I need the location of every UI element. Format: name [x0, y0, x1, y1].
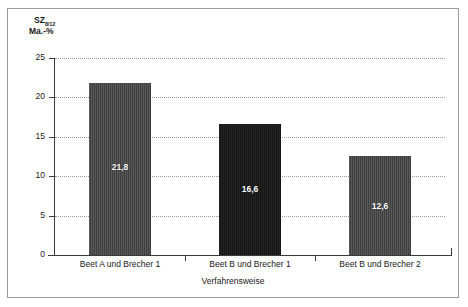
- bar: 16,6: [219, 124, 281, 255]
- bar-value-label: 12,6: [349, 201, 411, 211]
- y-axis-tick: [49, 255, 55, 256]
- bar-value-label: 16,6: [219, 184, 281, 194]
- chart-figure: SZ8/12 Ma.-% 21,816,612,6 Verfahrensweis…: [7, 8, 459, 298]
- gridline: [55, 58, 445, 59]
- x-axis-title: Verfahrensweise: [8, 276, 458, 286]
- y-axis-tick-label: 15: [18, 132, 45, 141]
- y-axis-tick: [49, 137, 55, 138]
- x-axis-category-label: Beet B und Brecher 1: [185, 259, 315, 269]
- bar: 12,6: [349, 156, 411, 255]
- x-axis-category-label: Beet A und Brecher 1: [55, 259, 185, 269]
- x-axis-category-label: Beet B und Brecher 2: [315, 259, 445, 269]
- plot-area: 21,816,612,6: [55, 58, 445, 255]
- y-axis-tick: [49, 97, 55, 98]
- x-axis-category-tick: [315, 255, 316, 261]
- y-axis-tick: [49, 216, 55, 217]
- y-axis-title-text: SZ: [34, 15, 45, 25]
- y-axis-tick-label: 20: [18, 92, 45, 101]
- y-axis-tick-label: 5: [18, 211, 45, 220]
- x-axis-category-tick: [185, 255, 186, 261]
- x-axis-end-tick: [451, 248, 452, 256]
- y-axis-tick-label: 10: [18, 171, 45, 180]
- y-axis-tick-label: 25: [18, 53, 45, 62]
- y-axis-tick: [49, 58, 55, 59]
- bar-value-label: 21,8: [89, 162, 151, 172]
- y-axis-unit: Ma.-%: [29, 26, 54, 37]
- bar: 21,8: [89, 83, 151, 255]
- y-axis-tick-label: 0: [18, 250, 45, 259]
- x-axis-line: [48, 255, 452, 256]
- y-axis-tick: [49, 176, 55, 177]
- y-axis-line: [54, 58, 55, 256]
